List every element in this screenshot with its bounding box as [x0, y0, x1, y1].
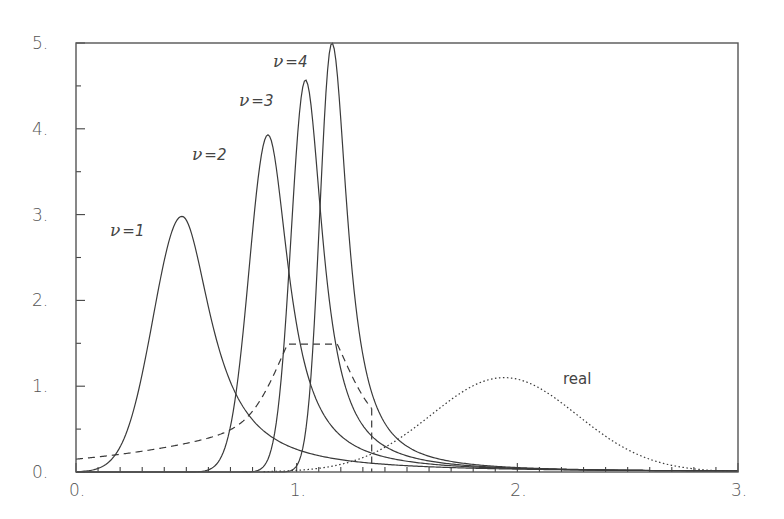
- x-tick-label: 0.: [69, 480, 85, 500]
- label-nu1: ν=1: [110, 220, 144, 240]
- curve-4: [76, 43, 738, 472]
- curve-real: [264, 378, 738, 472]
- chart-svg: 0.1.2.3.0.1.2.3.4.5. ν=1 ν=2 ν=3 ν=4 rea…: [0, 0, 784, 519]
- label-nu2: ν=2: [192, 144, 226, 164]
- label-nu4: ν=4: [273, 51, 307, 71]
- y-tick-label: 0.: [32, 462, 48, 482]
- y-tick-label: 3.: [32, 205, 48, 225]
- x-tick-label: 3.: [731, 480, 747, 500]
- plot-frame: [76, 43, 738, 472]
- plot-curves: [76, 43, 738, 472]
- y-tick-label: 2.: [32, 290, 48, 310]
- curve-3: [76, 80, 738, 472]
- curve-1: [76, 216, 738, 471]
- y-tick-label: 4.: [32, 119, 48, 139]
- axis-ticks: [76, 43, 738, 472]
- curve-dashed: [76, 344, 372, 459]
- label-real: real: [563, 370, 591, 388]
- x-tick-label: 1.: [290, 480, 306, 500]
- y-tick-label: 5.: [32, 33, 48, 53]
- y-tick-label: 1.: [32, 376, 48, 396]
- x-tick-label: 2.: [510, 480, 526, 500]
- curve-2: [76, 135, 738, 472]
- label-nu3: ν=3: [239, 90, 273, 110]
